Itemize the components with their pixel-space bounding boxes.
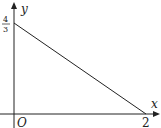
y-axis-label: y [20,2,28,16]
fraction-numerator: 4 [3,15,8,24]
x-intercept-label: 2 [142,116,150,128]
y-intercept-label: 4 3 [2,15,10,34]
y-axis-arrow-icon [11,2,17,9]
fraction-denominator: 3 [3,25,8,34]
y-axis [11,2,17,128]
coordinate-diagram: y x O 2 4 3 [0,0,161,128]
x-axis-label: x [151,97,158,111]
x-axis-arrow-icon [153,111,160,117]
graph-line [14,23,146,114]
origin-label: O [17,116,27,128]
